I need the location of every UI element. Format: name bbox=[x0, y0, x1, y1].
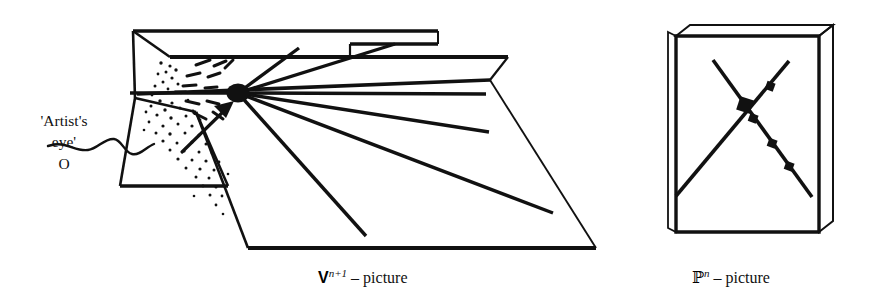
artists-eye-point bbox=[227, 84, 250, 103]
artists-eye-label-line3: O bbox=[58, 155, 69, 172]
caption-left-word: picture bbox=[363, 269, 407, 287]
caption-right-separator: – bbox=[710, 269, 726, 286]
ray-6 bbox=[238, 93, 553, 213]
arrow-shaft bbox=[182, 107, 228, 152]
caption-right-text: ℙn – picture bbox=[692, 267, 770, 287]
slab-front-face bbox=[676, 36, 819, 232]
ray-4 bbox=[238, 93, 486, 94]
line-rising bbox=[676, 61, 789, 196]
front-plane-right-edge bbox=[490, 80, 596, 248]
left-plane-upper-left-edge bbox=[133, 31, 135, 98]
artists-eye-label: 'Artist's eye' O bbox=[41, 112, 88, 172]
burst-dash-5 bbox=[183, 85, 196, 86]
burst-dash-4 bbox=[208, 73, 220, 77]
artists-eye-label-line2: eye' bbox=[52, 133, 77, 150]
burst-dash-2 bbox=[214, 61, 226, 66]
slab-right-face bbox=[819, 25, 833, 232]
caption-left-superscript: n+1 bbox=[329, 267, 347, 279]
caption-right-word: picture bbox=[726, 269, 770, 287]
artists-eye-label-line1: 'Artist's bbox=[41, 112, 88, 129]
burst-dash-7 bbox=[186, 101, 199, 104]
caption-left-separator: – bbox=[347, 269, 363, 286]
line-descending bbox=[713, 60, 812, 197]
left-panel-v-picture: 'Artist's eye' O bbox=[41, 31, 596, 248]
left-vertical-plane bbox=[120, 31, 228, 186]
caption-left-text: Vn+1 – picture bbox=[318, 267, 408, 287]
ray-7 bbox=[238, 93, 366, 236]
caption-left: Vn+1 – picture bbox=[318, 267, 408, 287]
figure-root: 'Artist's eye' O bbox=[0, 0, 880, 300]
burst-dash-3 bbox=[187, 73, 200, 76]
caption-left-symbol: V bbox=[318, 269, 329, 286]
front-plane-top-right-bevel bbox=[490, 57, 508, 80]
left-plane-lower-left-edge bbox=[120, 98, 135, 186]
front-plane bbox=[135, 57, 596, 248]
burst-dash-8 bbox=[207, 101, 219, 104]
burst-dash-6 bbox=[205, 87, 217, 88]
figure-canvas: 'Artist's eye' O bbox=[0, 0, 880, 300]
caption-right: ℙn – picture bbox=[692, 267, 770, 287]
burst-dash-1 bbox=[196, 60, 210, 65]
ray-5 bbox=[238, 93, 489, 132]
upper-plane-left-edge bbox=[133, 31, 170, 57]
caption-right-symbol: ℙ bbox=[692, 269, 704, 286]
right-panel-p-picture bbox=[668, 25, 833, 232]
